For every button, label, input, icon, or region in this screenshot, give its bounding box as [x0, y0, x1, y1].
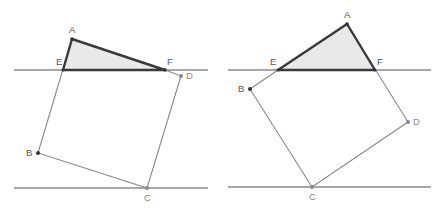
point-B-right [248, 87, 252, 91]
point-F-right [374, 69, 377, 72]
triangle-AEF-left [63, 39, 165, 70]
point-C-left [145, 186, 149, 190]
point-C-right [310, 185, 314, 189]
label-A-right: A [344, 9, 351, 20]
figure-right: A E F B D C [228, 9, 431, 202]
point-A-left [70, 37, 74, 41]
point-D-left [179, 74, 183, 78]
label-A-left: A [69, 24, 76, 35]
point-E-right [277, 69, 280, 72]
label-D-right: D [413, 116, 420, 127]
label-D-left: D [186, 70, 193, 81]
label-B-right: B [238, 83, 244, 94]
label-E-left: E [56, 56, 62, 67]
point-A-right [345, 22, 349, 26]
figure-left: A E F D B C [14, 24, 208, 203]
label-C-right: C [309, 191, 316, 202]
triangle-AEF-right [278, 24, 375, 70]
label-F-left: F [167, 56, 173, 67]
point-D-right [406, 120, 410, 124]
label-E-right: E [270, 56, 276, 67]
point-F-left [163, 68, 167, 72]
point-E-left [62, 69, 65, 72]
geometry-diagram: A E F D B C A E F B D C [0, 0, 444, 224]
point-B-left [36, 151, 40, 155]
label-C-left: C [144, 192, 151, 203]
label-B-left: B [26, 147, 32, 158]
label-F-right: F [377, 56, 383, 67]
